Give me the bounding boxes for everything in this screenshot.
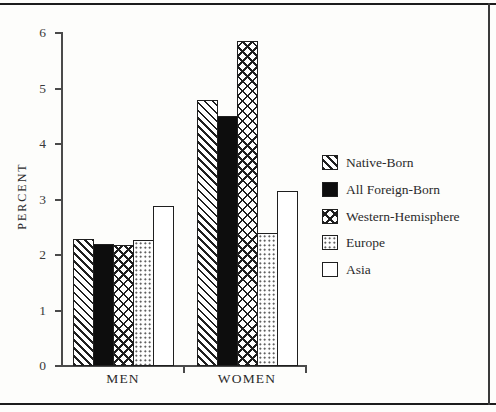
bar-men-europe (133, 240, 154, 366)
legend-label-europe: Europe (346, 235, 385, 250)
legend-label-western-hemisphere: Western-Hemisphere (346, 209, 460, 224)
category-label-women: WOMEN (218, 371, 277, 387)
y-tick-2 (55, 254, 61, 256)
y-axis-line (61, 32, 63, 367)
x-tick-axis-end (305, 366, 307, 373)
bar-chart: PERCENT 0123456 MENWOMEN Native-BornAll … (0, 0, 496, 412)
y-tick-label-6: 6 (16, 25, 46, 41)
y-tick-label-2: 2 (16, 247, 46, 263)
y-tick-5 (55, 88, 61, 90)
y-tick-3 (55, 199, 61, 201)
y-tick-6 (55, 32, 61, 34)
bar-women-all-foreign-born (217, 116, 238, 366)
legend-swatch-all-foreign-born (322, 182, 338, 197)
bar-women-native-born (197, 100, 218, 366)
y-tick-label-0: 0 (16, 358, 46, 374)
y-tick-4 (55, 143, 61, 145)
bar-men-native-born (73, 239, 94, 366)
y-tick-0 (55, 365, 61, 367)
legend-swatch-native-born (322, 155, 338, 170)
bar-men-asia (153, 206, 174, 366)
bar-women-europe (257, 233, 278, 366)
y-tick-label-4: 4 (16, 136, 46, 152)
y-tick-label-1: 1 (16, 302, 46, 318)
legend-swatch-europe (322, 235, 338, 250)
y-tick-label-3: 3 (16, 191, 46, 207)
bar-women-asia (277, 191, 298, 366)
legend-label-native-born: Native-Born (346, 155, 413, 170)
legend-swatch-western-hemisphere (322, 209, 338, 224)
bar-women-western-hemisphere (237, 41, 258, 366)
legend-label-all-foreign-born: All Foreign-Born (346, 182, 440, 197)
bar-men-western-hemisphere (113, 245, 134, 366)
y-tick-1 (55, 310, 61, 312)
category-label-men: MEN (106, 371, 140, 387)
x-tick-group-separator (183, 366, 185, 373)
legend-label-asia: Asia (346, 262, 371, 277)
y-tick-label-5: 5 (16, 80, 46, 96)
bar-men-all-foreign-born (93, 244, 114, 366)
legend-swatch-asia (322, 262, 338, 277)
